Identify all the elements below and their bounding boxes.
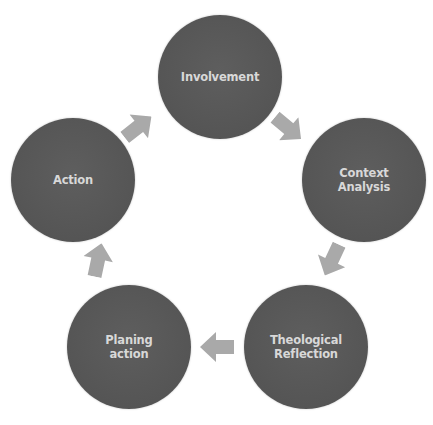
- arrow-theological-to-planing-icon: [200, 332, 234, 362]
- node-label: Context Analysis: [328, 166, 400, 194]
- arrow-context-to-theological-icon: [311, 238, 353, 281]
- node-label: Action: [43, 173, 103, 187]
- node-action: Action: [11, 118, 135, 242]
- arrow-involvement-to-context-icon: [265, 106, 310, 151]
- node-context-analysis: Context Analysis: [302, 118, 426, 242]
- arrow-planing-to-action-icon: [80, 240, 116, 279]
- cycle-diagram: Involvement Context Analysis Theological…: [0, 0, 433, 425]
- node-label: Involvement: [171, 70, 269, 84]
- node-involvement: Involvement: [158, 15, 282, 139]
- node-planing-action: Planing action: [67, 285, 191, 409]
- node-label: Planing action: [95, 333, 162, 361]
- node-theological-reflection: Theological Reflection: [244, 285, 368, 409]
- node-label: Theological Reflection: [260, 333, 352, 361]
